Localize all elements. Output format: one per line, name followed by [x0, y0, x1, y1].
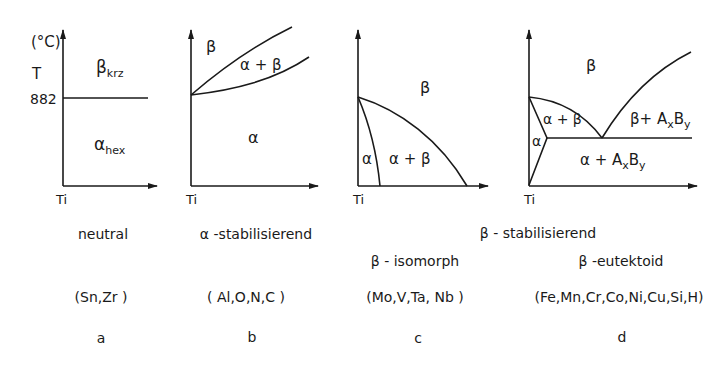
panel-c-two-phase-region: α + β	[389, 152, 431, 167]
panel-a-axes	[63, 30, 157, 186]
panel-c-alpha-region: α	[362, 152, 372, 167]
panel-c-letter: c	[414, 331, 422, 345]
panel-a-letter: a	[97, 331, 106, 345]
panel-d-beta-region: β	[586, 58, 596, 74]
panel-a-category: neutral	[78, 227, 128, 241]
panel-a-elements: (Sn,Zr )	[75, 290, 128, 304]
panel-b-letter: b	[248, 330, 257, 344]
panel-c-ti-label: Ti	[353, 193, 364, 206]
panel-d-alpha-region: α	[532, 134, 541, 148]
panel-c-beta-transus	[358, 97, 467, 186]
panel-c-alpha-transus	[358, 97, 380, 186]
panel-d-ti-label: Ti	[524, 193, 535, 206]
panel-d-subcategory: β -eutektoid	[579, 254, 664, 268]
panel-d-elements: (Fe,Mn,Cr,Co,Ni,Cu,Si,H)	[534, 290, 703, 304]
panel-d-alpha-compound-region: α + AxBy	[580, 153, 646, 171]
panel-a-ti-label: Ti	[56, 193, 67, 206]
panel-a-alpha-region: αhex	[94, 136, 125, 156]
panel-d-beta-compound-region: β+ AxBy	[630, 112, 691, 130]
panel-b-elements: ( Al,O,N,C )	[207, 290, 285, 304]
beta-group-label: β - stabilisierend	[480, 226, 596, 240]
panel-b-category: α -stabilisierend	[200, 227, 312, 241]
panel-b-two-phase-region: α + β	[240, 58, 282, 73]
panel-c-beta-region: β	[420, 80, 430, 96]
axis-unit-label: (°C)	[31, 35, 61, 50]
axis-temperature-label: T	[32, 67, 41, 82]
panel-b-alpha-region: α	[248, 130, 259, 146]
panel-c-subcategory: β - isomorph	[371, 254, 459, 268]
panel-d-alpha-beta-region: α + β	[543, 112, 582, 126]
phase-diagrams	[0, 0, 728, 373]
panel-c-elements: (Mo,V,Ta, Nb )	[366, 290, 464, 304]
panel-a-beta-region: βkrz	[96, 59, 124, 79]
panel-d-letter: d	[618, 330, 627, 344]
axis-882-label: 882	[30, 92, 57, 106]
panel-b-beta-region: β	[206, 39, 216, 55]
panel-b-ti-label: Ti	[186, 193, 197, 206]
